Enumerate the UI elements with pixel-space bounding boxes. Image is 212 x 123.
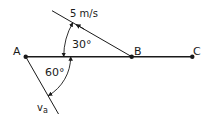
point-a xyxy=(24,55,28,59)
kinematics-diagram: A B C 5 m/s 30° 60° va xyxy=(0,0,212,123)
speed-label: 5 m/s xyxy=(70,8,98,19)
angle-label-30: 30° xyxy=(72,38,92,51)
velocity-arrow-b xyxy=(76,24,84,29)
angle-label-60: 60° xyxy=(45,66,65,79)
label-b: B xyxy=(134,45,142,58)
velocity-a-label: va xyxy=(37,102,48,115)
velocity-a-subscript: a xyxy=(43,106,48,115)
label-a: A xyxy=(13,45,21,58)
label-c: C xyxy=(193,45,201,58)
